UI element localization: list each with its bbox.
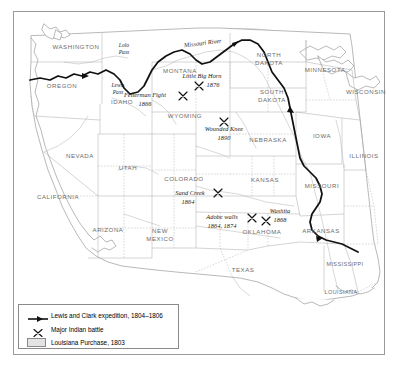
state-label: NEVADA <box>66 152 94 159</box>
legend-item-louisiana-purchase: Louisiana Purchase, 1803 <box>25 337 125 347</box>
battle-year: 1890 <box>218 134 232 141</box>
state-label: IDAHO <box>111 98 133 105</box>
battle-label: Sand Creek <box>175 189 205 196</box>
state-label: NORTH <box>257 51 281 58</box>
state-label: WASHINGTON <box>52 43 99 50</box>
state-label: MISSISSIPPI <box>326 261 363 267</box>
lewis-pass-label: Pass <box>112 89 124 95</box>
battle-year: 1864, 1874 <box>208 222 238 229</box>
state-label: UTAH <box>119 164 137 171</box>
battle-label: Washita <box>270 207 290 214</box>
legend-label: Louisiana Purchase, 1803 <box>51 339 125 346</box>
state-label: WISCONSIN <box>346 88 386 95</box>
battle-label: Adobe walls <box>205 213 238 220</box>
state-label: LOUISIANA <box>325 289 358 295</box>
state-label: KANSAS <box>251 176 279 183</box>
state-label: TEXAS <box>232 266 255 273</box>
map-legend: Lewis and Clark expedition, 1804–1806 Ma… <box>18 304 179 349</box>
battle-year: 1866 <box>139 100 153 107</box>
lolo-pass-label: Pass <box>118 49 130 55</box>
battle-label: Fetterman Fight <box>123 91 166 98</box>
state-label: COLORADO <box>164 175 203 182</box>
lolo-pass-label: Lolo <box>118 42 129 48</box>
state-label: MEXICO <box>146 235 173 242</box>
state-label: WYOMING <box>168 112 202 119</box>
battle-year: 1876 <box>207 81 221 88</box>
legend-item-battle: Major Indian battle <box>25 324 104 334</box>
state-label: IOWA <box>313 132 332 139</box>
legend-item-expedition: Lewis and Clark expedition, 1804–1806 <box>25 310 163 320</box>
state-label: NEW <box>152 227 168 234</box>
state-label: DAKOTA <box>258 96 286 103</box>
state-label: SOUTH <box>260 88 284 95</box>
legend-label: Lewis and Clark expedition, 1804–1806 <box>51 312 163 319</box>
state-label: ARIZONA <box>93 226 124 233</box>
state-label: CALIFORNIA <box>37 193 79 200</box>
battle-x-icon <box>25 324 51 334</box>
route-line-icon <box>25 310 51 320</box>
battle-label: Little Big Horn <box>181 72 221 79</box>
state-label: OREGON <box>47 82 77 89</box>
battle-label: Wounded Knee <box>205 125 243 132</box>
state-label: MISSOURI <box>305 182 340 189</box>
state-label: ILLINOIS <box>349 152 378 159</box>
battle-year: 1864 <box>182 198 196 205</box>
map-container: WASHINGTON OREGON IDAHO MONTANA WYOMING … <box>0 0 398 367</box>
battle-year: 1868 <box>274 216 288 223</box>
state-label: NEBRASKA <box>249 136 287 143</box>
legend-label: Major Indian battle <box>51 326 104 333</box>
state-label: ARKANSAS <box>302 227 340 234</box>
state-label: MINNESOTA <box>305 66 346 73</box>
area-swatch-icon <box>25 337 51 347</box>
lewis-pass-label: Lewis <box>110 82 124 88</box>
state-label: OKLAHOMA <box>243 228 282 235</box>
state-label: DAKOTA <box>255 59 283 66</box>
